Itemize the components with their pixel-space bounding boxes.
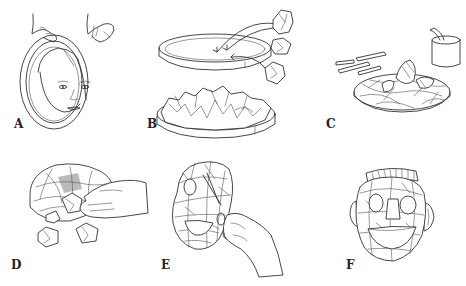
- panel-d: D: [0, 143, 155, 286]
- arrow-1: [217, 23, 277, 52]
- cut-holes-illustration: [155, 143, 310, 286]
- eye-hole-left: [369, 194, 383, 212]
- brush: [430, 28, 444, 40]
- step-label-f: F: [346, 259, 355, 271]
- panel-b: B: [145, 0, 310, 143]
- step-label-a: A: [14, 118, 23, 130]
- remove-paper-illustration: [0, 143, 155, 286]
- step-label-d: D: [11, 259, 21, 271]
- eye-hole-right: [400, 196, 416, 214]
- step-label-e: E: [161, 259, 170, 271]
- tray-with-paper-illustration: [145, 0, 310, 143]
- paste-pot: [432, 36, 460, 44]
- step-label-c: C: [326, 118, 336, 130]
- finished-mask-illustration: [310, 143, 466, 286]
- panel-c: C: [310, 0, 466, 143]
- paper-ball: [38, 227, 58, 247]
- nose: [386, 199, 400, 219]
- panel-f: F: [310, 143, 466, 286]
- paper-strip: [356, 52, 386, 61]
- arrow-3: [231, 56, 265, 68]
- paper-ball: [273, 10, 293, 34]
- panel-a: A: [0, 0, 155, 143]
- eye-hole: [184, 179, 196, 195]
- step-label-b: B: [147, 118, 157, 130]
- panel-e: E: [155, 143, 310, 286]
